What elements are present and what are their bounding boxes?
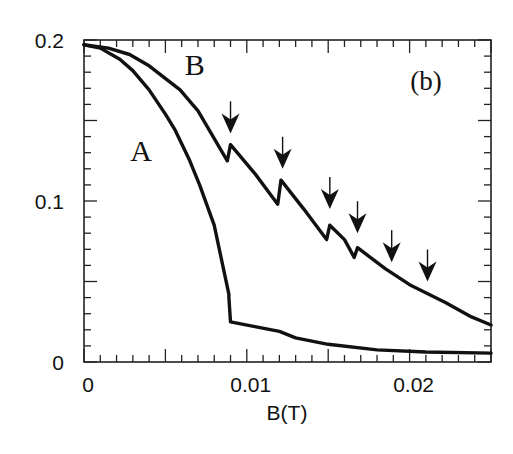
down-arrow-icon [419, 250, 437, 282]
y-tick-label: 0.1 [35, 190, 64, 213]
x-tick-label: 0.01 [230, 373, 271, 396]
down-arrow-icon [321, 177, 339, 209]
down-arrow-icon [274, 137, 292, 169]
y-tick-label: 0 [52, 351, 64, 374]
arrow-annotations [222, 101, 437, 281]
curve-label-a: A [130, 134, 152, 167]
down-arrow-icon [383, 230, 401, 262]
x-axis-label: B(T) [267, 401, 308, 424]
down-arrow-icon [222, 101, 240, 133]
x-tick-label: 0 [82, 373, 94, 396]
chart-svg: 00.010.0200.10.2 AB B(T) (b) [0, 0, 513, 454]
y-tick-label: 0.2 [35, 29, 64, 52]
curve-label-b: B [185, 48, 205, 81]
x-tick-label: 0.02 [393, 373, 434, 396]
axis-tick-labels: 00.010.0200.10.2 [35, 29, 434, 396]
down-arrow-icon [349, 201, 367, 233]
panel-label: (b) [410, 66, 441, 96]
